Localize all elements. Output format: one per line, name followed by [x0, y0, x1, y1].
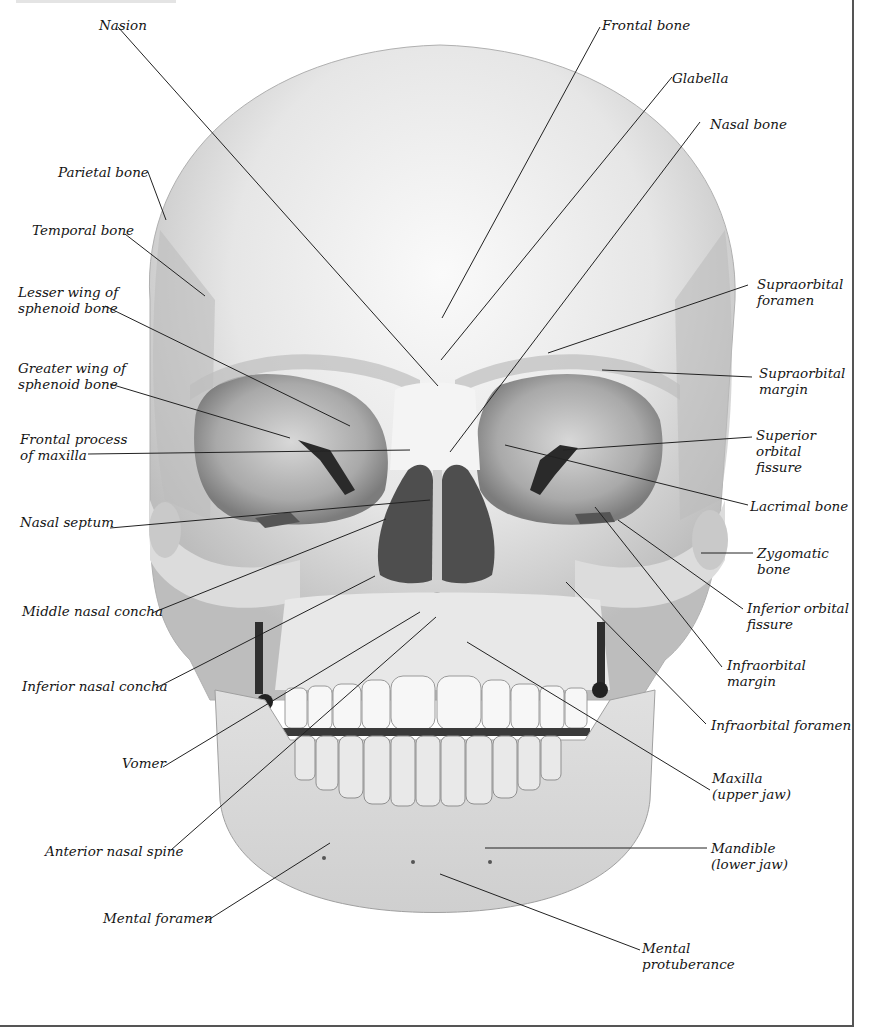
label-superior-orbital-fissure: Superior orbital fissure	[756, 427, 816, 475]
label-lesser-wing-sphenoid: Lesser wing of sphenoid bone	[18, 284, 118, 316]
label-mandible: Mandible (lower jaw)	[711, 840, 788, 872]
label-temporal-bone: Temporal bone	[32, 222, 134, 238]
label-greater-wing-sphenoid: Greater wing of sphenoid bone	[18, 360, 126, 392]
label-mental-foramen: Mental foramen	[103, 910, 213, 926]
label-nasal-bone: Nasal bone	[710, 116, 787, 132]
label-frontal-process-maxilla: Frontal process of maxilla	[20, 431, 127, 463]
label-middle-nasal-concha: Middle nasal concha	[22, 603, 163, 619]
label-infraorbital-foramen: Infraorbital foramen	[711, 717, 851, 733]
label-inferior-nasal-concha: Inferior nasal concha	[22, 678, 168, 694]
label-glabella: Glabella	[672, 70, 728, 86]
label-infraorbital-margin: Infraorbital margin	[727, 657, 806, 689]
label-supraorbital-margin: Supraorbital margin	[759, 365, 845, 397]
label-lacrimal-bone: Lacrimal bone	[750, 498, 848, 514]
label-inferior-orbital-fissure: Inferior orbital fissure	[747, 600, 849, 632]
label-nasion: Nasion	[99, 17, 147, 33]
label-mental-protuberance: Mental protuberance	[642, 940, 735, 972]
skull-illustration	[0, 0, 882, 1034]
label-nasal-septum: Nasal septum	[20, 514, 114, 530]
label-maxilla: Maxilla (upper jaw)	[712, 770, 791, 802]
label-parietal-bone: Parietal bone	[58, 164, 149, 180]
label-zygomatic-bone: Zygomatic bone	[757, 545, 829, 577]
label-supraorbital-foramen: Supraorbital foramen	[757, 276, 843, 308]
label-vomer: Vomer	[122, 755, 166, 771]
label-frontal-bone: Frontal bone	[602, 17, 690, 33]
label-anterior-nasal-spine: Anterior nasal spine	[45, 843, 183, 859]
